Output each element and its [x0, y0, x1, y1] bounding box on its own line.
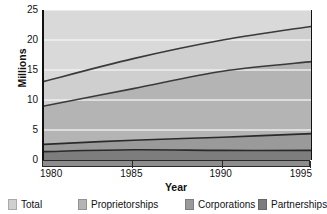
- x-tick-label-1990: 1990: [210, 168, 232, 179]
- y-tick-label-0: 0: [18, 155, 38, 165]
- legend-item-partnerships[interactable]: Partnerships: [258, 199, 327, 210]
- chart-legend: TotalProprietorshipsCorporationsPartners…: [0, 196, 321, 212]
- y-tick-label-25: 25: [18, 5, 38, 15]
- legend-item-corporations[interactable]: Corporations: [185, 199, 255, 210]
- legend-swatch-icon: [78, 199, 87, 210]
- x-tick-label-1985: 1985: [120, 168, 142, 179]
- x-tick-mark-1990: [222, 161, 223, 168]
- x-axis-title: Year: [42, 181, 310, 193]
- x-tick-mark-1985: [132, 161, 133, 168]
- legend-item-proprietorships[interactable]: Proprietorships: [78, 199, 158, 210]
- x-tick-mark-1995: [310, 161, 311, 168]
- x-tick-label-1980: 1980: [40, 168, 62, 179]
- legend-label: Partnerships: [271, 199, 327, 210]
- y-tick-label-20: 20: [18, 35, 38, 45]
- x-tick-label-1995: 1995: [290, 168, 312, 179]
- y-tick-label-15: 15: [18, 65, 38, 75]
- x-axis-tick-labels: 1980198519901995: [0, 168, 321, 182]
- x-axis-bar: [42, 160, 310, 167]
- legend-label: Corporations: [198, 199, 255, 210]
- y-tick-label-5: 5: [18, 125, 38, 135]
- y-tick-label-10: 10: [18, 95, 38, 105]
- legend-item-total[interactable]: Total: [8, 199, 42, 210]
- plot-svg: [44, 10, 312, 160]
- plot-area: [42, 10, 312, 160]
- legend-label: Total: [21, 199, 42, 210]
- legend-label: Proprietorships: [91, 199, 158, 210]
- legend-swatch-icon: [185, 199, 194, 210]
- legend-swatch-icon: [8, 199, 17, 210]
- legend-swatch-icon: [258, 199, 267, 210]
